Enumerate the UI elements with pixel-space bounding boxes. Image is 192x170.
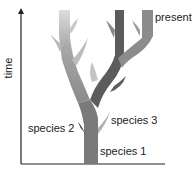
arrow-up-icon [18,8,24,14]
species1-label: species 1 [100,146,146,157]
species3-spur [98,112,110,134]
spur [106,20,115,38]
phylogenetic-diagram: time present species 3 species 2 species… [0,0,192,170]
spur [90,62,98,82]
present-label: present [155,12,192,23]
spur [72,38,88,66]
y-axis-label: time [2,58,14,79]
trunk [78,100,98,164]
species3-label: species 3 [111,115,157,126]
spur [132,20,140,36]
y-axis [18,8,24,164]
tree-graphic [0,0,192,170]
species2-label: species 2 [28,123,74,134]
spur [70,18,78,34]
